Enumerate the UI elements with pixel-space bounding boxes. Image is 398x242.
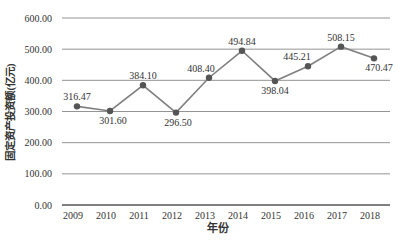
x-tick-label: 2009 bbox=[63, 210, 83, 221]
x-tick-label: 2012 bbox=[162, 210, 182, 221]
data-point bbox=[140, 82, 146, 88]
y-tick-label: 400.00 bbox=[25, 75, 53, 86]
data-label: 470.47 bbox=[365, 62, 393, 73]
x-axis-ticks: 2009201020112012201320142015201620172018 bbox=[63, 210, 380, 221]
data-point bbox=[239, 48, 245, 54]
data-point bbox=[107, 108, 113, 114]
data-point bbox=[371, 55, 377, 61]
y-axis-label: 固定资产投资额(亿元) bbox=[4, 63, 17, 160]
data-label: 384.10 bbox=[129, 70, 157, 81]
x-tick-label: 2010 bbox=[96, 210, 116, 221]
x-tick-label: 2013 bbox=[195, 210, 215, 221]
data-label: 296.50 bbox=[164, 117, 192, 128]
data-point bbox=[305, 63, 311, 69]
y-tick-label: 0.00 bbox=[35, 200, 53, 211]
data-point bbox=[173, 109, 179, 115]
x-tick-label: 2011 bbox=[129, 210, 149, 221]
data-label: 508.15 bbox=[327, 32, 355, 43]
y-tick-label: 200.00 bbox=[25, 137, 53, 148]
data-point bbox=[74, 103, 80, 109]
data-point bbox=[272, 78, 278, 84]
data-label: 316.47 bbox=[63, 91, 91, 102]
x-tick-label: 2018 bbox=[360, 210, 380, 221]
data-label: 445.21 bbox=[283, 51, 311, 62]
y-tick-label: 600.00 bbox=[25, 13, 53, 24]
y-tick-label: 500.00 bbox=[25, 44, 53, 55]
y-axis-ticks: 0.00100.00200.00300.00400.00500.00600.00 bbox=[25, 13, 53, 211]
data-label: 398.04 bbox=[261, 85, 289, 96]
data-markers bbox=[74, 43, 377, 115]
y-tick-label: 100.00 bbox=[25, 168, 53, 179]
data-label: 408.40 bbox=[187, 63, 215, 74]
data-label: 301.60 bbox=[99, 115, 127, 126]
data-line bbox=[77, 47, 374, 113]
data-point bbox=[206, 75, 212, 81]
data-point bbox=[338, 43, 344, 49]
x-tick-label: 2014 bbox=[228, 210, 248, 221]
data-label: 494.84 bbox=[228, 36, 256, 47]
x-axis-label: 年份 bbox=[207, 221, 230, 234]
x-tick-label: 2015 bbox=[261, 210, 281, 221]
x-tick-label: 2017 bbox=[327, 210, 347, 221]
line-chart: 0.00100.00200.00300.00400.00500.00600.00… bbox=[0, 0, 398, 242]
x-tick-label: 2016 bbox=[294, 210, 314, 221]
y-tick-label: 300.00 bbox=[25, 106, 53, 117]
